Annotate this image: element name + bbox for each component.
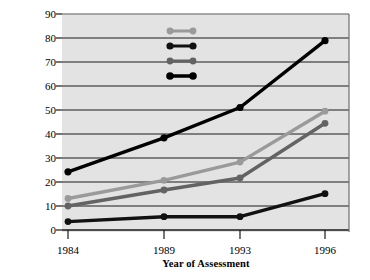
data-point [160, 134, 167, 141]
data-point [65, 195, 72, 202]
chart-plot-svg [0, 0, 370, 280]
y-axis-ticks [56, 14, 62, 230]
data-point [161, 187, 168, 194]
data-point [161, 213, 168, 220]
data-point [322, 190, 329, 197]
data-point [322, 108, 329, 115]
data-point [161, 177, 168, 184]
data-point [237, 213, 244, 220]
data-point [322, 120, 329, 127]
data-point [237, 159, 244, 166]
data-point [237, 175, 244, 182]
data-point [65, 218, 72, 225]
data-point [64, 168, 71, 175]
data-point [321, 37, 328, 44]
chart-container: Percent of Students Using Computers at H… [0, 0, 370, 280]
data-point [65, 203, 72, 210]
data-point [236, 104, 243, 111]
